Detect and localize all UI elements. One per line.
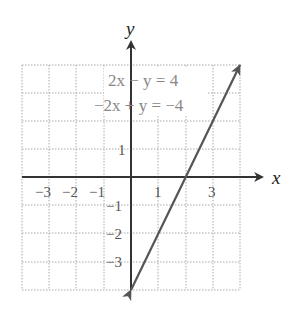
x-tick--3: −3 bbox=[35, 184, 51, 200]
graph: y x 2x − y = 4 −2x + y = −4 −3 −2 −1 1 3… bbox=[0, 0, 297, 314]
x-axis-label: x bbox=[271, 167, 281, 188]
x-tick--1: −1 bbox=[89, 184, 105, 200]
y-axis-label: y bbox=[124, 18, 135, 39]
x-tick-1: 1 bbox=[154, 184, 162, 200]
x-tick-3: 3 bbox=[208, 184, 216, 200]
y-tick--2: −2 bbox=[106, 226, 122, 242]
equation-2: −2x + y = −4 bbox=[94, 96, 184, 115]
equation-1: 2x − y = 4 bbox=[108, 71, 179, 90]
x-tick--2: −2 bbox=[62, 184, 78, 200]
y-tick--3: −3 bbox=[106, 254, 122, 270]
y-tick-1: 1 bbox=[118, 142, 126, 158]
y-tick--1: −1 bbox=[106, 198, 122, 214]
